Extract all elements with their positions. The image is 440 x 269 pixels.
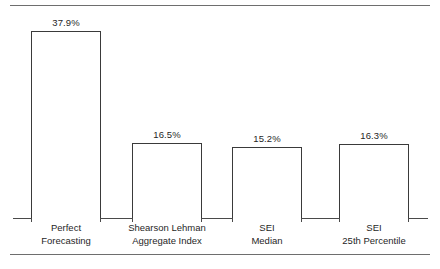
category-label-line1: SEI (314, 222, 434, 235)
bar-value-sei-median: 15.2% (232, 133, 302, 144)
bar-shearson-lehman-aggregate-index (132, 143, 202, 219)
bar-chart-figure: 37.9% 16.5% 15.2% 16.3% Perfect Forecast… (0, 0, 440, 269)
category-label-line2: Median (207, 235, 327, 248)
category-label-line2: 25th Percentile (314, 235, 434, 248)
category-labels: Perfect Forecasting Shearson Lehman Aggr… (0, 222, 440, 252)
bar-value-perfect-forecasting: 37.9% (31, 17, 101, 28)
category-label-line1: SEI (207, 222, 327, 235)
bar-perfect-forecasting (31, 31, 101, 219)
category-label-sei-median: SEI Median (207, 222, 327, 247)
bar-sei-median (232, 147, 302, 219)
bar-value-shearson-lehman-aggregate-index: 16.5% (132, 129, 202, 140)
bar-value-sei-25th-percentile: 16.3% (339, 130, 409, 141)
category-label-sei-25th-percentile: SEI 25th Percentile (314, 222, 434, 247)
bar-sei-25th-percentile (339, 144, 409, 219)
